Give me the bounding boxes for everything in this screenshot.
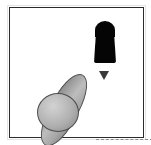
black-capsule-object[interactable] [94, 22, 116, 63]
down-arrow-marker[interactable] [99, 71, 110, 80]
simulation-viewport [0, 0, 151, 145]
capsule-rounded-top [95, 21, 115, 37]
gray-sphere-body [37, 93, 79, 132]
triangle-down-icon [99, 71, 109, 80]
viewport-frame [9, 7, 144, 138]
dashed-ground-line [96, 139, 151, 140]
gray-blob-cluster[interactable] [36, 68, 98, 145]
